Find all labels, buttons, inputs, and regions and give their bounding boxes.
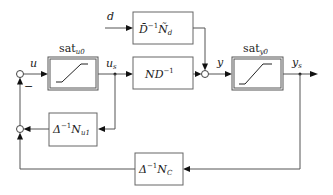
y-label: y	[216, 56, 224, 69]
minus-sign: −	[24, 80, 33, 93]
lower-summing-junction	[17, 126, 24, 133]
saturation-curve-icon	[56, 64, 88, 82]
arrowhead-icon	[195, 71, 202, 77]
right-summing-junction	[202, 71, 209, 78]
arrowhead-icon	[17, 133, 23, 140]
sat-y0-block	[232, 57, 283, 90]
arrowhead-icon	[126, 71, 133, 77]
us-feedback-line	[104, 74, 115, 129]
sat-y0-label: saty0	[243, 42, 269, 56]
sat-u0-block	[48, 57, 98, 90]
arrowhead-icon	[41, 71, 48, 77]
block-diagram: u satu0 us D̄−1Ñd d ND−1 y saty0	[0, 0, 333, 195]
output-arrowhead-icon	[310, 71, 318, 77]
arrowhead-icon	[225, 71, 232, 77]
plant-block: ND−1	[133, 57, 193, 89]
arrowhead-icon	[24, 126, 31, 132]
left-summing-junction	[17, 71, 24, 78]
feedback-u1-block: Δ−1Nu1	[49, 113, 97, 146]
arrowhead-icon	[126, 25, 133, 31]
disturbance-block: D̄−1Ñd	[133, 12, 193, 44]
arrowhead-icon	[17, 78, 23, 85]
d-label: d	[107, 10, 114, 23]
sat-u0-label: satu0	[59, 42, 85, 56]
u-label: u	[30, 57, 37, 70]
ys-label: ys	[291, 56, 302, 70]
saturation-curve-icon	[239, 64, 272, 84]
disturbance-output-line	[193, 28, 205, 65]
arrowhead-icon	[202, 64, 208, 71]
arrowhead-icon	[98, 126, 105, 132]
us-label: us	[106, 57, 117, 71]
arrowhead-icon	[183, 166, 190, 172]
feedback-c-block: Δ−1NC	[135, 153, 183, 185]
